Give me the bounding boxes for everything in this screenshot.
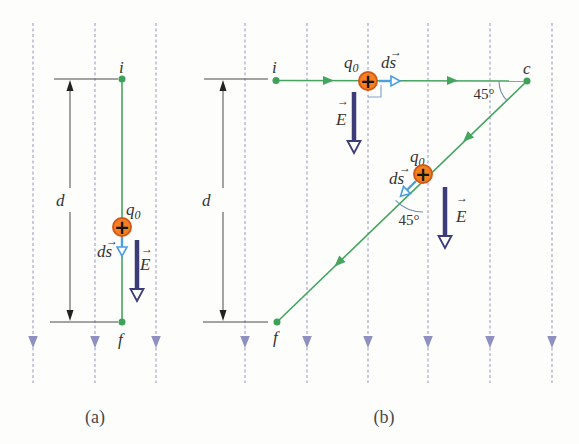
dimension-arrow-up-icon <box>67 80 74 91</box>
point-f-dot <box>119 319 126 326</box>
field-arrow-down-icon <box>423 336 433 348</box>
point-c-label: c <box>523 59 531 78</box>
e1-vector-arrow-icon: → <box>337 94 349 108</box>
panel-a: d i f q0 + ds → E → (a) <box>50 58 153 428</box>
panel-a-caption: (a) <box>85 407 105 428</box>
e-label: E <box>139 255 151 274</box>
angle-arc-on-path <box>396 200 423 212</box>
field-arrow-down-icon <box>28 336 38 348</box>
angle-on-path-label: 45° <box>399 212 420 228</box>
ds2-vector-arrow-icon: → <box>399 161 411 175</box>
dimension-arrow-down-icon <box>67 310 74 321</box>
figure-canvas: d i f q0 + ds → E → (a) d <box>0 0 579 444</box>
physics-figure: d i f q0 + ds → E → (a) d <box>0 0 579 444</box>
path-arrow-right-icon <box>447 76 458 85</box>
e1-label: E <box>335 110 347 129</box>
field-arrow-down-icon <box>302 336 312 348</box>
point-i-label: i <box>119 58 124 77</box>
path-arrow-right-icon <box>323 76 334 85</box>
plus-sign-icon: + <box>360 70 376 92</box>
field-arrow-down-icon <box>547 336 557 348</box>
angle-at-c-label: 45° <box>474 86 495 102</box>
field-arrow-down-icon <box>151 336 161 348</box>
ds-vector-arrow-icon: → <box>106 234 118 248</box>
ds-arrowhead-icon <box>117 247 127 256</box>
plus-sign-icon: + <box>415 163 431 185</box>
e-vector-arrow-icon: → <box>141 242 153 256</box>
dimension-arrow-up-icon <box>220 80 227 91</box>
charge1-label: q0 <box>344 53 359 75</box>
e-arrowhead-icon <box>131 289 144 301</box>
panel-b: d i c f 45° q0 + ds → E → q0 + <box>202 45 531 428</box>
point-f-label: f <box>118 330 125 349</box>
field-arrow-down-icon <box>90 336 100 348</box>
point-i-label: i <box>272 58 277 77</box>
panel-b-caption: (b) <box>374 407 395 428</box>
angle-arc-at-c <box>499 81 507 101</box>
ds1-vector-arrow-icon: → <box>390 45 402 59</box>
field-arrow-down-icon <box>240 336 250 348</box>
ds1-arrowhead-icon <box>391 76 400 86</box>
point-f-dot <box>274 319 281 326</box>
point-c-dot <box>524 78 531 85</box>
point-i-dot <box>273 77 280 84</box>
dimension-label: d <box>56 191 65 210</box>
dimension-label: d <box>202 191 211 210</box>
field-lines <box>28 23 557 383</box>
field-arrow-down-icon <box>363 336 373 348</box>
charge1-label-sub: 0 <box>353 61 359 75</box>
e2-arrowhead-icon <box>439 236 452 248</box>
e2-vector-arrow-icon: → <box>456 191 468 205</box>
dimension-arrow-down-icon <box>220 310 227 321</box>
e1-arrowhead-icon <box>348 141 361 153</box>
charge-label-sub: 0 <box>135 208 141 222</box>
e2-label: E <box>455 207 467 226</box>
field-arrow-down-icon <box>485 336 495 348</box>
point-f-label: f <box>273 328 280 347</box>
